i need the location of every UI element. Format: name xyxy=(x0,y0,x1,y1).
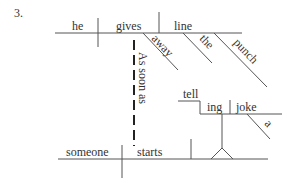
sub-verb: starts xyxy=(137,145,163,159)
connector-text: As soon as xyxy=(136,52,150,104)
gerund-stem: tell xyxy=(183,87,199,101)
gerund-suffix: ing xyxy=(207,100,222,114)
gerund-object-modifier-a: a xyxy=(262,116,276,130)
main-subject: he xyxy=(72,19,83,33)
gerund-object: joke xyxy=(235,100,257,114)
object-modifier-the: the xyxy=(197,31,217,51)
object-modifier-punch: punch xyxy=(231,35,261,66)
main-verb: gives xyxy=(116,19,142,33)
pedestal-triangle xyxy=(211,148,233,159)
sub-subject: someone xyxy=(66,145,109,159)
verb-modifier-away: away xyxy=(149,31,177,59)
main-object: line xyxy=(174,19,192,33)
sentence-diagram: he gives line away the punch As soon as … xyxy=(0,0,297,184)
